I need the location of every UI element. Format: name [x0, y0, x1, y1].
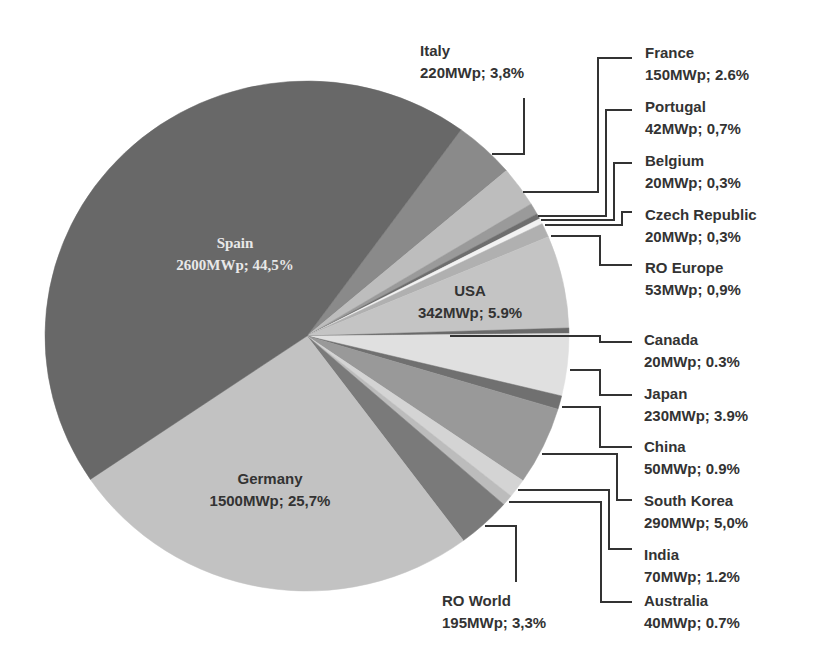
label-australia: Australia 40MWp; 0.7% — [644, 590, 740, 634]
label-china: China 50MWp; 0.9% — [644, 436, 740, 480]
label-ro-world: RO World 195MWp; 3,3% — [442, 590, 546, 634]
label-belgium: Belgium 20MWp; 0,3% — [645, 150, 741, 194]
label-france: France 150MWp; 2.6% — [645, 42, 749, 86]
leader-line-ro-world — [485, 526, 516, 582]
label-japan: Japan 230MWp; 3.9% — [644, 383, 748, 427]
label-germany-name: Germany — [170, 468, 370, 490]
label-china-name: China — [644, 436, 740, 458]
label-ro-europe-name: RO Europe — [645, 257, 741, 279]
label-ro-world-value: 195MWp; 3,3% — [442, 612, 546, 634]
leader-line-ro-europe — [551, 236, 632, 265]
label-south-korea-value: 290MWp; 5,0% — [644, 512, 748, 534]
leader-line-south-korea — [542, 454, 632, 500]
label-czech-republic: Czech Republic 20MWp; 0,3% — [645, 204, 757, 248]
label-india-value: 70MWp; 1.2% — [644, 566, 740, 588]
label-belgium-name: Belgium — [645, 150, 741, 172]
label-japan-name: Japan — [644, 383, 748, 405]
label-canada-name: Canada — [644, 329, 740, 351]
leader-line-france — [523, 58, 632, 192]
label-usa-name: USA — [405, 280, 535, 302]
label-france-value: 150MWp; 2.6% — [645, 64, 749, 86]
label-portugal: Portugal 42MWp; 0,7% — [645, 96, 741, 140]
label-ro-world-name: RO World — [442, 590, 546, 612]
label-india: India 70MWp; 1.2% — [644, 544, 740, 588]
label-ro-europe-value: 53MWp; 0,9% — [645, 279, 741, 301]
label-portugal-name: Portugal — [645, 96, 741, 118]
label-india-name: India — [644, 544, 740, 566]
label-south-korea-name: South Korea — [644, 490, 748, 512]
label-ro-europe: RO Europe 53MWp; 0,9% — [645, 257, 741, 301]
label-germany-value: 1500MWp; 25,7% — [170, 490, 370, 512]
leader-line-japan — [570, 370, 632, 395]
label-spain: Spain 2600MWp; 44,5% — [120, 232, 350, 276]
leader-line-italy — [492, 98, 524, 154]
label-germany: Germany 1500MWp; 25,7% — [170, 468, 370, 512]
label-canada-value: 20MWp; 0.3% — [644, 351, 740, 373]
leader-line-czech — [545, 212, 632, 225]
label-czech-name: Czech Republic — [645, 204, 757, 226]
label-italy-name: Italy — [420, 40, 524, 62]
label-italy: Italy 220MWp; 3,8% — [420, 40, 524, 84]
leader-line-china — [562, 407, 632, 447]
label-south-korea: South Korea 290MWp; 5,0% — [644, 490, 748, 534]
label-usa-value: 342MWp; 5.9% — [405, 302, 535, 324]
label-spain-name: Spain — [120, 232, 350, 254]
label-france-name: France — [645, 42, 749, 64]
label-spain-value: 2600MWp; 44,5% — [120, 254, 350, 276]
label-australia-name: Australia — [644, 590, 740, 612]
leader-line-india — [518, 490, 632, 549]
label-canada: Canada 20MWp; 0.3% — [644, 329, 740, 373]
label-japan-value: 230MWp; 3.9% — [644, 405, 748, 427]
label-portugal-value: 42MWp; 0,7% — [645, 118, 741, 140]
label-belgium-value: 20MWp; 0,3% — [645, 172, 741, 194]
label-china-value: 50MWp; 0.9% — [644, 458, 740, 480]
leader-line-australia — [509, 502, 632, 602]
label-italy-value: 220MWp; 3,8% — [420, 62, 524, 84]
label-usa: USA 342MWp; 5.9% — [405, 280, 535, 324]
label-czech-value: 20MWp; 0,3% — [645, 226, 757, 248]
label-australia-value: 40MWp; 0.7% — [644, 612, 740, 634]
